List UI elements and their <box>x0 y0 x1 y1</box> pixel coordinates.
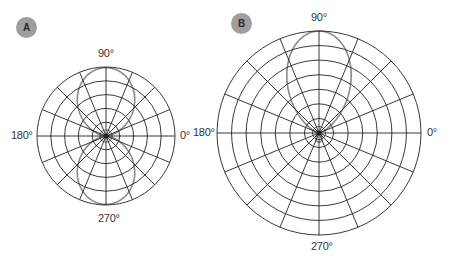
panel-badge-b: B <box>231 13 252 34</box>
label-a-270: 270° <box>98 212 120 224</box>
label-b-180: 180° <box>193 126 215 138</box>
polar-diagrams <box>0 0 451 266</box>
label-b-270: 270° <box>311 240 333 252</box>
polar-grid-a <box>37 67 175 205</box>
label-a-0: 0° <box>180 129 190 141</box>
label-a-180: 180° <box>11 129 33 141</box>
label-b-90: 90° <box>311 11 327 23</box>
panel-badge-a: A <box>16 17 37 38</box>
label-b-0: 0° <box>427 126 437 138</box>
polar-grid-b <box>217 31 421 235</box>
label-a-90: 90° <box>98 47 114 59</box>
